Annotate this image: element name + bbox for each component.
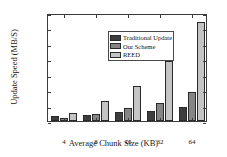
legend-item-traditional-update: Traditional Update bbox=[110, 34, 171, 42]
y-tick-mark bbox=[48, 92, 51, 93]
y-tick-mark bbox=[48, 46, 51, 47]
bar-reed-8kb bbox=[101, 101, 109, 121]
y-tick-mark bbox=[48, 77, 51, 78]
legend-swatch-traditional-update bbox=[110, 35, 121, 41]
legend-label-our-scheme: Our Scheme bbox=[123, 43, 155, 50]
bar-chart-figure: Update Speed (MB/S) Traditional Update O… bbox=[0, 0, 227, 157]
x-tick-mark-top bbox=[160, 15, 161, 18]
y-tick-mark bbox=[48, 123, 51, 124]
legend-label-traditional-update: Traditional Update bbox=[123, 34, 172, 41]
legend-item-reed: REED bbox=[110, 51, 171, 59]
legend-swatch-our-scheme bbox=[110, 43, 121, 49]
plot-area: Traditional Update Our Scheme REED 05010… bbox=[47, 14, 207, 122]
x-tick-mark-top bbox=[192, 15, 193, 18]
x-tick-mark bbox=[128, 118, 129, 121]
y-tick-mark bbox=[48, 108, 51, 109]
y-tick-mark bbox=[48, 61, 51, 62]
bar-traditional-update-16kb bbox=[115, 112, 123, 121]
bar-reed-32kb bbox=[165, 61, 173, 121]
bar-reed-64kb bbox=[197, 22, 205, 121]
legend-swatch-reed bbox=[110, 52, 121, 58]
x-tick-mark bbox=[160, 118, 161, 121]
y-tick-mark bbox=[48, 15, 51, 16]
y-tick-mark-right bbox=[203, 30, 206, 31]
y-tick-mark-right bbox=[203, 61, 206, 62]
x-tick-mark bbox=[64, 118, 65, 121]
bar-traditional-update-8kb bbox=[83, 115, 91, 121]
x-tick-mark bbox=[96, 118, 97, 121]
x-tick-mark bbox=[192, 118, 193, 121]
legend-label-reed: REED bbox=[123, 51, 140, 58]
x-axis-title: Average Chunk Size (KB) bbox=[0, 138, 227, 148]
y-axis-title: Update Speed (MB/S) bbox=[9, 12, 19, 122]
bar-reed-4kb bbox=[69, 113, 77, 121]
y-tick-mark-right bbox=[203, 77, 206, 78]
bar-traditional-update-32kb bbox=[147, 111, 155, 121]
x-tick-mark-top bbox=[128, 15, 129, 18]
y-tick-mark-right bbox=[203, 92, 206, 93]
y-tick-mark-right bbox=[203, 15, 206, 16]
bar-traditional-update-4kb bbox=[51, 116, 59, 121]
bar-reed-16kb bbox=[133, 86, 141, 121]
bar-our-scheme-64kb bbox=[188, 92, 196, 121]
chart-legend: Traditional Update Our Scheme REED bbox=[108, 31, 174, 61]
y-tick-mark-right bbox=[203, 123, 206, 124]
x-tick-mark-top bbox=[64, 15, 65, 18]
x-tick-mark-top bbox=[96, 15, 97, 18]
y-tick-mark-right bbox=[203, 108, 206, 109]
y-tick-mark-right bbox=[203, 46, 206, 47]
legend-item-our-scheme: Our Scheme bbox=[110, 42, 171, 50]
bar-traditional-update-64kb bbox=[179, 107, 187, 121]
y-tick-mark bbox=[48, 30, 51, 31]
